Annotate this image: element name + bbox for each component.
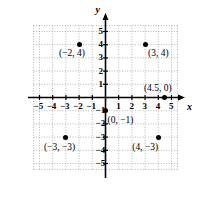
data-point: [156, 135, 161, 140]
data-point: [63, 135, 68, 140]
data-point: [77, 42, 82, 47]
data-points: [0, 0, 197, 199]
data-point: [143, 42, 148, 47]
data-point: [162, 95, 167, 100]
data-point: [103, 108, 108, 113]
coordinate-plane-figure: x y −5−4−3−2−11234554321−1−2−3−4−5(−2, 4…: [0, 0, 197, 199]
